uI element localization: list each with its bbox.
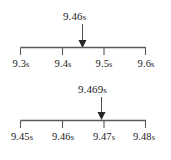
- tick-value: 9.48: [133, 131, 152, 142]
- tick-value: 9.5: [96, 58, 109, 69]
- tick-value: 9.3: [13, 58, 26, 69]
- tick-unit: s: [71, 132, 74, 142]
- tick-label: 9.45s: [11, 131, 33, 142]
- tick-unit: s: [151, 59, 154, 69]
- tick-label: 9.5s: [96, 58, 113, 69]
- tick-unit: s: [68, 59, 71, 69]
- annotation-value-top: 9.46: [63, 10, 83, 22]
- tick-value: 9.45: [11, 131, 30, 142]
- annotation-label-top: 9.46s: [63, 10, 86, 22]
- tick-value: 9.4: [55, 58, 68, 69]
- axis-top: [0, 45, 171, 57]
- axis-bottom: [0, 118, 171, 130]
- tick-label: 9.47s: [93, 131, 115, 142]
- tick-unit: s: [112, 132, 115, 142]
- numberline-bottom: 9.469s 9.45s 9.46s 9.47s 9.48s: [0, 75, 171, 160]
- tick-label: 9.48s: [133, 131, 155, 142]
- annotation-value-bottom: 9.469: [78, 83, 103, 95]
- tick-value: 9.46: [52, 131, 71, 142]
- tick-label: 9.46s: [52, 131, 74, 142]
- tick-value: 9.47: [93, 131, 112, 142]
- tick-unit: s: [109, 59, 112, 69]
- numberline-top: 9.46s 9.3s 9.4s 9.5s 9.6s: [0, 0, 171, 80]
- tick-label: 9.6s: [138, 58, 155, 69]
- tick-label: 9.4s: [55, 58, 72, 69]
- annotation-unit-bottom: s: [103, 85, 107, 95]
- tick-unit: s: [30, 132, 33, 142]
- annotation-unit-top: s: [83, 12, 87, 22]
- tick-unit: s: [26, 59, 29, 69]
- tick-label: 9.3s: [13, 58, 30, 69]
- tick-unit: s: [152, 132, 155, 142]
- tick-value: 9.6: [138, 58, 151, 69]
- annotation-label-bottom: 9.469s: [78, 83, 107, 95]
